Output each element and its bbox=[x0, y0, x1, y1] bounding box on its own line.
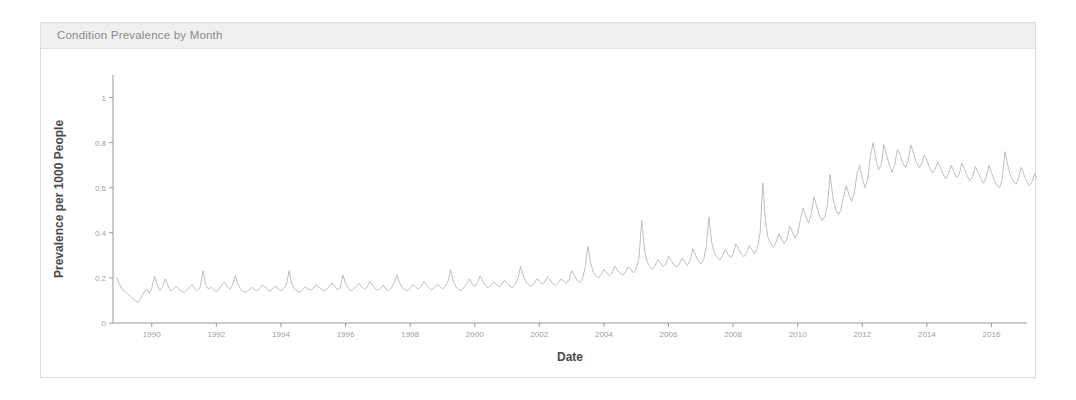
x-tick-label: 1996 bbox=[337, 330, 355, 339]
y-tick-label: 0.6 bbox=[95, 184, 107, 193]
panel-title: Condition Prevalence by Month bbox=[57, 29, 223, 41]
x-tick-label: 2002 bbox=[530, 330, 548, 339]
x-tick-label: 1992 bbox=[207, 330, 225, 339]
y-tick-label: 1 bbox=[102, 94, 107, 103]
x-tick-label: 2012 bbox=[853, 330, 871, 339]
x-tick-label: 2014 bbox=[918, 330, 936, 339]
x-tick-label: 2006 bbox=[660, 330, 678, 339]
x-tick-label: 2016 bbox=[983, 330, 1001, 339]
y-tick-label: 0.4 bbox=[95, 229, 107, 238]
x-axis: 1990199219941996199820002002200420062008… bbox=[113, 323, 1027, 339]
x-tick-label: 2000 bbox=[466, 330, 484, 339]
chart-panel: Condition Prevalence by Month 00.20.40.6… bbox=[40, 22, 1036, 378]
series-line-prevalence bbox=[117, 84, 1037, 302]
x-tick-label: 2010 bbox=[789, 330, 807, 339]
x-tick-label: 1994 bbox=[272, 330, 290, 339]
y-axis-title: Prevalence per 1000 People bbox=[52, 120, 66, 278]
line-chart: 00.20.40.60.81 1990199219941996199820002… bbox=[41, 49, 1037, 379]
panel-header: Condition Prevalence by Month bbox=[41, 23, 1035, 49]
x-tick-label: 2004 bbox=[595, 330, 613, 339]
x-tick-label: 2008 bbox=[724, 330, 742, 339]
y-tick-label: 0.8 bbox=[95, 139, 107, 148]
x-tick-label: 1998 bbox=[401, 330, 419, 339]
y-tick-label: 0 bbox=[102, 319, 107, 328]
y-axis: 00.20.40.60.81 bbox=[95, 75, 113, 328]
x-axis-title: Date bbox=[557, 350, 583, 364]
plot-area: 00.20.40.60.81 1990199219941996199820002… bbox=[41, 49, 1035, 379]
y-tick-label: 0.2 bbox=[95, 274, 107, 283]
x-tick-label: 1990 bbox=[143, 330, 161, 339]
